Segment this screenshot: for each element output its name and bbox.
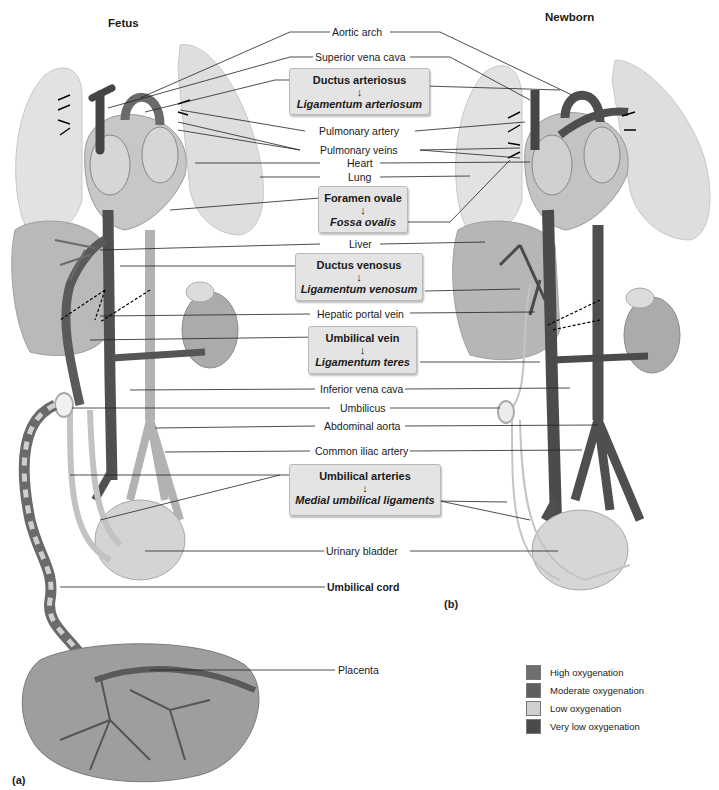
down-arrow-icon: ↓ xyxy=(296,272,422,283)
legend-swatch-high xyxy=(526,665,541,680)
adult-remnant: Ligamentum venosum xyxy=(296,283,422,296)
newborn-inferior-vena-cava xyxy=(548,210,556,520)
panel-a-tag: (a) xyxy=(12,774,25,786)
fetus-kidney xyxy=(182,292,238,368)
legend-item-low: Low oxygenation xyxy=(526,699,644,717)
label-liver: Liver xyxy=(347,238,374,250)
transition-box-ductus-venosus: Ductus venosus ↓ Ligamentum venosum xyxy=(295,253,423,301)
legend-item-high: High oxygenation xyxy=(526,663,644,681)
adult-remnant: Ligamentum arteriosum xyxy=(290,98,429,111)
label-inferior-vena-cava: Inferior vena cava xyxy=(318,383,405,395)
newborn-header: Newborn xyxy=(545,11,594,23)
legend-label-low: Low oxygenation xyxy=(550,703,621,714)
newborn-illustration xyxy=(453,60,710,590)
legend-label-very-low: Very low oxygenation xyxy=(550,721,640,732)
legend-item-very-low: Very low oxygenation xyxy=(526,717,644,735)
label-umbilical-cord: Umbilical cord xyxy=(325,581,401,593)
transition-box-ductus-arteriosus: Ductus arteriosus ↓ Ligamentum arteriosu… xyxy=(289,68,430,115)
legend-swatch-moderate xyxy=(526,683,541,698)
legend-label-moderate: Moderate oxygenation xyxy=(550,685,644,696)
newborn-kidney xyxy=(624,297,680,373)
adult-remnant: Ligamentum teres xyxy=(309,356,416,369)
label-placenta: Placenta xyxy=(336,664,381,676)
label-umbilicus: Umbilicus xyxy=(338,402,388,414)
oxygenation-legend: High oxygenation Moderate oxygenation Lo… xyxy=(526,663,644,735)
adult-remnant: Medial umbilical ligaments xyxy=(290,494,440,507)
fetus-header: Fetus xyxy=(108,17,139,29)
down-arrow-icon: ↓ xyxy=(319,205,407,216)
fetus-urinary-bladder xyxy=(95,500,185,580)
transition-box-umbilical-arteries: Umbilical arteries ↓ Medial umbilical li… xyxy=(289,464,441,516)
fetus-placenta xyxy=(22,644,259,782)
panel-b-tag: (b) xyxy=(444,598,458,610)
label-common-iliac-artery: Common iliac artery xyxy=(313,445,410,457)
transition-box-umbilical-vein: Umbilical vein ↓ Ligamentum teres xyxy=(308,326,417,374)
legend-swatch-very-low xyxy=(526,719,541,734)
label-abdominal-aorta: Abdominal aorta xyxy=(322,420,402,432)
newborn-left-lung xyxy=(456,66,522,236)
label-aortic-arch: Aortic arch xyxy=(330,26,384,38)
down-arrow-icon: ↓ xyxy=(290,483,440,494)
fetus-umbilicus xyxy=(55,393,73,417)
legend-label-high: High oxygenation xyxy=(550,667,623,678)
legend-swatch-low xyxy=(526,701,541,716)
newborn-umbilicus xyxy=(498,401,514,423)
label-pulmonary-artery: Pulmonary artery xyxy=(317,125,401,137)
label-pulmonary-veins: Pulmonary veins xyxy=(318,144,400,156)
transition-box-foramen-ovale: Foramen ovale ↓ Fossa ovalis xyxy=(318,186,408,233)
down-arrow-icon: ↓ xyxy=(309,345,416,356)
label-hepatic-portal-vein: Hepatic portal vein xyxy=(315,308,406,320)
fetus-right-lung xyxy=(178,45,263,235)
fetus-inferior-vena-cava xyxy=(108,210,112,480)
label-lung: Lung xyxy=(346,171,373,183)
label-superior-vena-cava: Superior vena cava xyxy=(313,51,407,63)
legend-item-moderate: Moderate oxygenation xyxy=(526,681,644,699)
adult-remnant: Fossa ovalis xyxy=(319,216,407,229)
label-heart: Heart xyxy=(345,157,375,169)
fetus-left-lung xyxy=(16,68,82,236)
down-arrow-icon: ↓ xyxy=(290,87,429,98)
label-urinary-bladder: Urinary bladder xyxy=(324,545,400,557)
fetus-illustration xyxy=(12,45,264,782)
